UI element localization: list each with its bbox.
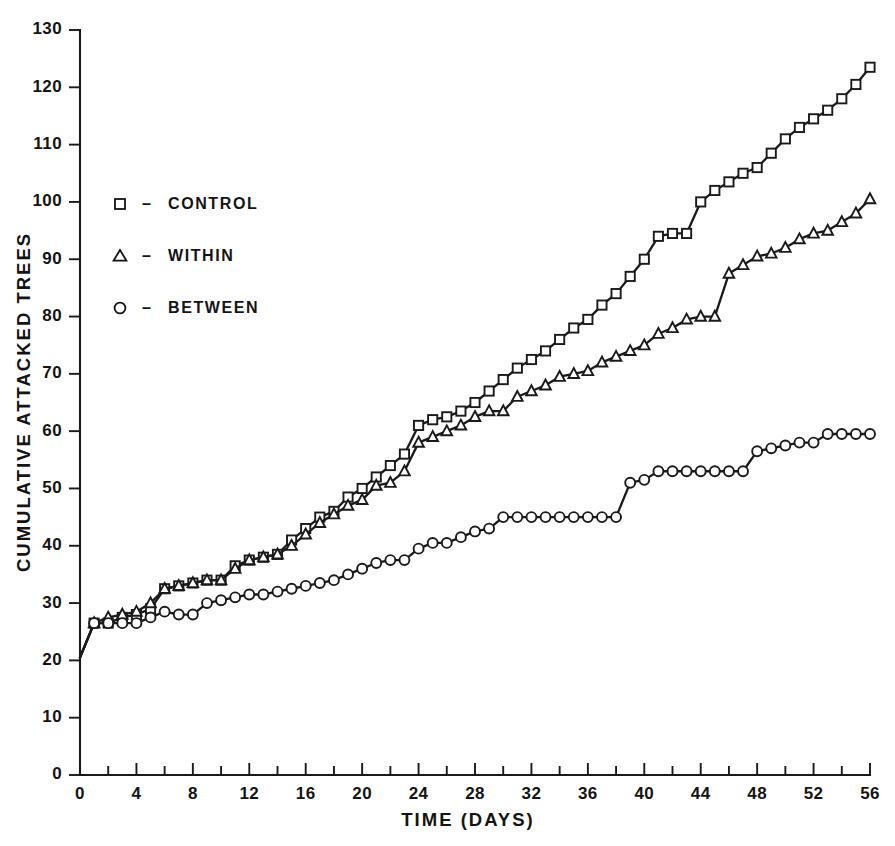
circle-marker: [371, 558, 381, 568]
triangle-marker: [427, 431, 438, 441]
y-axis-title: CUMULATIVE ATTACKED TREES: [13, 232, 34, 572]
x-axis-tick-labels: 048121620242832364044485256: [75, 784, 880, 803]
legend-label: CONTROL: [168, 195, 258, 212]
square-marker: [428, 415, 437, 424]
circle-marker: [456, 532, 466, 542]
square-marker: [724, 177, 733, 186]
triangle-marker: [625, 345, 636, 355]
triangle-marker: [484, 405, 495, 415]
y-tick-label: 40: [42, 535, 62, 554]
circle-marker: [428, 538, 438, 548]
square-marker: [795, 123, 804, 132]
circle-marker: [385, 555, 395, 565]
circle-marker: [668, 466, 678, 476]
circle-marker: [611, 512, 621, 522]
triangle-marker: [470, 411, 481, 421]
square-marker: [386, 461, 395, 470]
square-marker: [682, 229, 691, 238]
x-tick-label: 0: [75, 784, 85, 803]
circle-marker: [597, 512, 607, 522]
circle-marker: [174, 610, 184, 620]
triangle-marker: [512, 391, 523, 401]
series-line-control: [80, 67, 870, 657]
square-marker: [414, 421, 423, 430]
circle-marker: [230, 592, 240, 602]
y-tick-label: 80: [42, 306, 62, 325]
x-tick-label: 8: [188, 784, 198, 803]
triangle-marker: [766, 248, 777, 258]
x-tick-label: 16: [296, 784, 316, 803]
circle-marker: [343, 569, 353, 579]
circle-marker: [794, 438, 804, 448]
circle-marker: [498, 512, 508, 522]
legend-dash: –: [142, 299, 153, 316]
x-tick-label: 24: [409, 784, 429, 803]
square-marker: [781, 134, 790, 143]
circle-marker: [329, 575, 339, 585]
y-tick-label: 110: [33, 134, 62, 153]
square-marker: [527, 355, 536, 364]
legend-dash: –: [142, 195, 153, 212]
square-marker: [115, 199, 125, 209]
y-tick-label: 70: [42, 363, 62, 382]
circle-marker: [526, 512, 536, 522]
square-marker: [837, 94, 846, 103]
cumulative-attacked-trees-chart: 0102030405060708090100110120130 04812162…: [0, 0, 895, 846]
square-marker: [753, 163, 762, 172]
y-tick-label: 60: [42, 421, 62, 440]
triangle-marker: [583, 365, 594, 375]
square-marker: [555, 335, 564, 344]
triangle-marker: [597, 357, 608, 367]
circle-marker: [442, 538, 452, 548]
y-tick-label: 100: [32, 191, 62, 210]
square-marker: [583, 315, 592, 324]
x-tick-label: 40: [634, 784, 654, 803]
data-series-layer: [80, 63, 875, 658]
legend-dash: –: [142, 247, 153, 264]
circle-marker: [696, 466, 706, 476]
circle-marker: [414, 544, 424, 554]
triangle-marker: [399, 466, 410, 476]
triangle-marker: [710, 311, 721, 321]
circle-marker: [244, 590, 254, 600]
circle-marker: [823, 429, 833, 439]
circle-marker: [837, 429, 847, 439]
square-marker: [626, 272, 635, 281]
circle-marker: [315, 578, 325, 588]
circle-marker: [287, 584, 297, 594]
circle-marker: [865, 429, 875, 439]
circle-marker: [115, 303, 126, 314]
y-tick-label: 20: [42, 650, 62, 669]
triangle-marker: [794, 233, 805, 243]
circle-marker: [682, 466, 692, 476]
y-axis-ticks: [69, 30, 80, 775]
circle-marker: [738, 466, 748, 476]
triangle-marker: [822, 225, 833, 235]
square-marker: [541, 346, 550, 355]
figure-container: 0102030405060708090100110120130 04812162…: [0, 0, 895, 846]
circle-marker: [202, 598, 212, 608]
x-tick-label: 12: [239, 784, 259, 803]
square-marker: [597, 300, 606, 309]
circle-marker: [188, 610, 198, 620]
square-marker: [569, 323, 578, 332]
y-tick-label: 90: [42, 249, 62, 268]
triangle-marker: [808, 228, 819, 238]
y-tick-label: 30: [42, 593, 62, 612]
y-tick-label: 50: [42, 478, 62, 497]
circle-marker: [766, 443, 776, 453]
y-tick-label: 10: [42, 707, 62, 726]
triangle-marker: [117, 609, 128, 619]
triangle-marker: [131, 606, 142, 616]
square-marker: [851, 80, 860, 89]
series-control: [80, 63, 875, 658]
triangle-marker: [738, 259, 749, 269]
triangle-marker: [667, 322, 678, 332]
x-tick-label: 44: [691, 784, 711, 803]
circle-marker: [160, 607, 170, 617]
circle-marker: [89, 618, 99, 628]
circle-marker: [625, 478, 635, 488]
x-axis-title: TIME (DAYS): [401, 809, 534, 830]
triangle-marker: [836, 216, 847, 226]
x-tick-label: 28: [465, 784, 485, 803]
